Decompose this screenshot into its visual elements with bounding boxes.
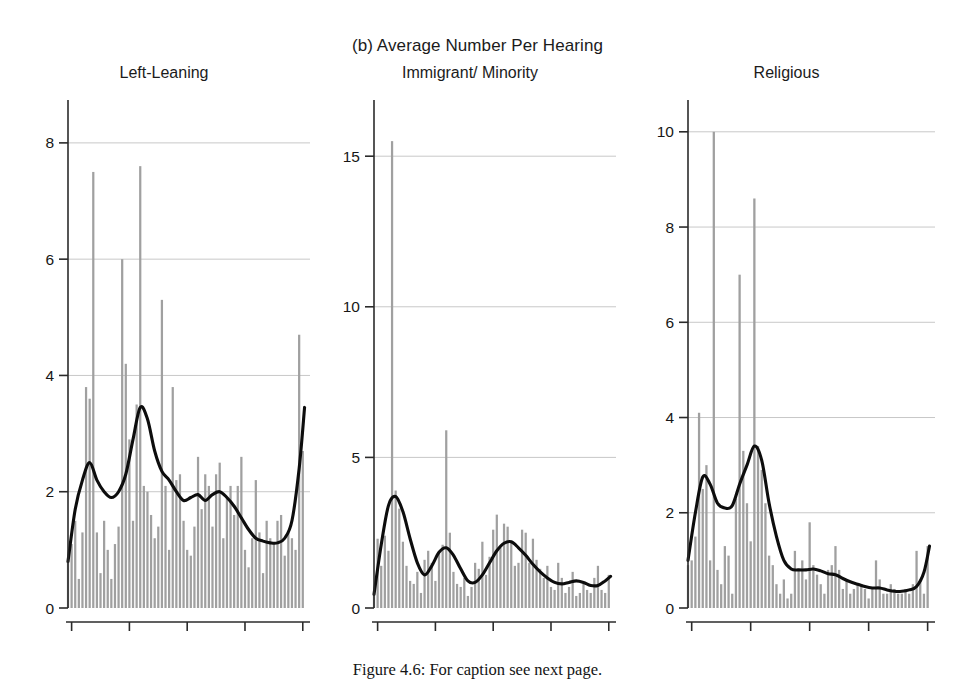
x-axis-tick-label: 1962 <box>418 636 452 639</box>
x-axis-tick-label: 1946 <box>360 636 394 639</box>
y-axis-tick-label: 2 <box>665 504 674 521</box>
y-axis-tick-label: 10 <box>657 123 675 140</box>
x-axis-tick-label: 1994 <box>228 636 263 639</box>
chart-panel-religious: Religious 024681019461962197819942010 <box>634 64 939 639</box>
y-axis-tick-label: 4 <box>45 367 54 384</box>
plot-area-left-leaning: 0246819461962197819942010 <box>14 64 314 639</box>
plot-area-religious: 024681019461962197819942010 <box>634 64 939 639</box>
x-axis-tick-label: 2010 <box>910 636 939 639</box>
bar-series <box>687 132 929 608</box>
chart-panel-immigrant-minority: Immigrant/ Minority 05101519461962197819… <box>320 64 620 639</box>
y-axis-tick-label: 2 <box>45 483 54 500</box>
y-axis-tick-label: 10 <box>343 298 361 315</box>
y-axis-tick-label: 6 <box>665 314 674 331</box>
y-axis-tick-label: 4 <box>665 409 674 426</box>
y-axis-tick-label: 15 <box>343 148 360 165</box>
x-axis-tick-label: 1962 <box>112 636 146 639</box>
figure-caption: Figure 4.6: For caption see next page. <box>0 660 955 680</box>
y-axis-tick-label: 5 <box>351 449 360 466</box>
x-axis-tick-label: 1962 <box>733 636 767 639</box>
x-axis-tick-label: 1978 <box>476 636 510 639</box>
x-axis-tick-label: 1946 <box>54 636 88 639</box>
figure-title: (b) Average Number Per Hearing <box>0 36 955 56</box>
x-axis-tick-label: 1994 <box>851 636 886 639</box>
x-axis-tick-label: 1978 <box>170 636 204 639</box>
y-axis-tick-label: 0 <box>665 600 674 617</box>
x-axis-tick-label: 1994 <box>534 636 569 639</box>
chart-panel-left-leaning: Left-Leaning 0246819461962197819942010 <box>14 64 314 639</box>
y-axis-tick-label: 0 <box>45 600 54 617</box>
y-axis-tick-label: 0 <box>351 600 360 617</box>
y-axis-tick-label: 8 <box>665 219 674 236</box>
x-axis-tick-label: 2010 <box>286 636 314 639</box>
figure-root: (b) Average Number Per Hearing Left-Lean… <box>0 0 955 695</box>
x-axis-tick-label: 1978 <box>792 636 826 639</box>
y-axis-tick-label: 8 <box>45 134 54 151</box>
plot-area-immigrant-minority: 05101519461962197819942010 <box>320 64 620 639</box>
x-axis-tick-label: 2010 <box>592 636 620 639</box>
x-axis-tick-label: 1946 <box>674 636 708 639</box>
y-axis-tick-label: 6 <box>45 251 54 268</box>
